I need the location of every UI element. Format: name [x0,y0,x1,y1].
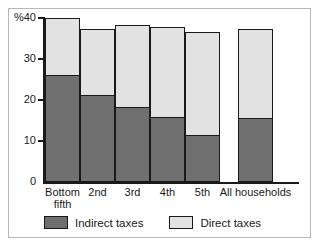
bar-5[interactable] [185,32,220,182]
y-axis-tick-label: 20 [12,94,36,105]
plot-area [44,18,298,182]
bar-3[interactable] [115,25,150,182]
bar-2[interactable] [80,29,115,182]
y-axis-tick-mark [38,99,44,101]
bar-segment-indirect-taxes[interactable] [186,135,219,181]
bar-1[interactable] [45,18,80,182]
chart-screenshot: % 010203040 Indirect taxes Direct taxes … [0,0,321,248]
legend-item-indirect-taxes: Indirect taxes [44,216,143,229]
bar-6[interactable] [238,29,273,182]
x-axis-line [43,182,299,184]
y-axis-tick-label: 40 [12,12,36,23]
x-axis-label-6: All households [208,186,304,198]
legend-swatch-indirect-icon [44,216,68,229]
legend-label-indirect: Indirect taxes [75,217,143,229]
bar-4[interactable] [150,27,185,182]
y-axis-tick-label: 0 [12,176,36,187]
bar-segment-direct-taxes[interactable] [239,30,272,120]
y-axis-tick-labels: 010203040 [10,0,36,248]
bar-segment-direct-taxes[interactable] [46,19,79,77]
y-axis-tick-mark [38,140,44,142]
bar-segment-direct-taxes[interactable] [116,26,149,109]
bar-segment-indirect-taxes[interactable] [46,75,79,181]
y-axis-tick-mark [38,58,44,60]
bar-segment-direct-taxes[interactable] [81,30,114,96]
y-axis-tick-mark [38,17,44,19]
legend-item-direct-taxes: Direct taxes [169,216,261,229]
legend-label-direct: Direct taxes [200,217,261,229]
bar-segment-indirect-taxes[interactable] [81,95,114,181]
legend-swatch-direct-icon [169,216,193,229]
y-axis-tick-label: 10 [12,135,36,146]
bar-segment-direct-taxes[interactable] [151,28,184,119]
bar-segment-indirect-taxes[interactable] [239,118,272,181]
bar-segment-indirect-taxes[interactable] [151,117,184,181]
y-axis-tick-label: 30 [12,53,36,64]
chart-legend: Indirect taxes Direct taxes [44,216,261,229]
bar-segment-direct-taxes[interactable] [186,33,219,137]
bar-segment-indirect-taxes[interactable] [116,107,149,181]
